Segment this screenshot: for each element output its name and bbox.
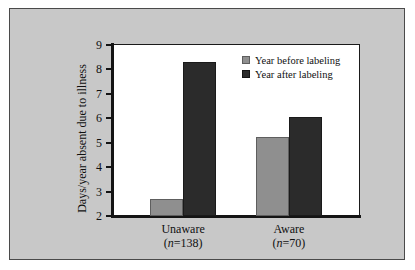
y-tick-mark xyxy=(106,93,112,95)
y-tick-label: 9 xyxy=(86,39,102,51)
category-name: Aware xyxy=(239,222,339,236)
bar-aware-after xyxy=(289,117,322,216)
y-tick-label: 8 xyxy=(86,63,102,75)
x-axis-label-aware: Aware(n=70) xyxy=(239,222,339,250)
y-tick-mark xyxy=(106,68,112,70)
y-tick-mark xyxy=(106,117,112,119)
bar-unaware-before xyxy=(150,199,183,216)
legend-item-before: Year before labeling xyxy=(242,54,360,66)
y-tick-label: 6 xyxy=(86,112,102,124)
y-tick-mark xyxy=(106,191,112,193)
y-tick-mark xyxy=(106,44,112,46)
y-tick-label: 2 xyxy=(86,210,102,222)
legend-item-after: Year after labeling xyxy=(242,68,360,80)
y-tick-mark xyxy=(106,166,112,168)
category-name: Unaware xyxy=(133,222,233,236)
legend-label-after: Year after labeling xyxy=(255,69,333,80)
bar-aware-before xyxy=(256,137,289,216)
y-tick-label: 7 xyxy=(86,88,102,100)
chart-panel: Days/year absent due to illness 23456789… xyxy=(9,8,405,260)
y-tick-mark xyxy=(106,142,112,144)
legend-swatch-after-icon xyxy=(242,70,250,78)
y-tick-label: 5 xyxy=(86,137,102,149)
y-tick-label: 4 xyxy=(86,161,102,173)
legend-label-before: Year before labeling xyxy=(255,55,340,66)
category-sample-size: (n=138) xyxy=(133,236,233,250)
y-tick-label: 3 xyxy=(86,186,102,198)
category-sample-size: (n=70) xyxy=(239,236,339,250)
bar-unaware-after xyxy=(183,62,216,216)
legend-swatch-before-icon xyxy=(242,56,250,64)
x-axis-label-unaware: Unaware(n=138) xyxy=(133,222,233,250)
figure-container: Days/year absent due to illness 23456789… xyxy=(0,0,415,270)
chart-legend: Year before labeling Year after labeling xyxy=(242,54,360,82)
y-tick-mark xyxy=(106,215,112,217)
